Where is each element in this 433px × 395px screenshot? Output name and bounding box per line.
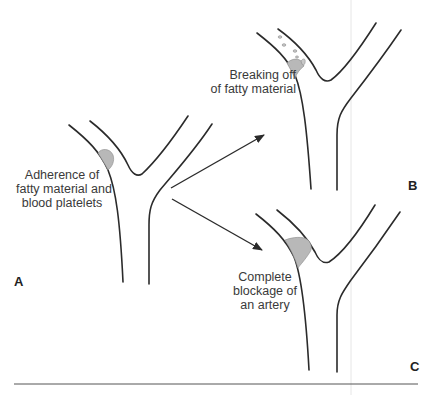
caption-c-line-3: an artery [230, 298, 300, 312]
panel-letter-a: A [14, 274, 23, 289]
artery-b-left-wall [257, 33, 311, 189]
caption-a-line-2: fatty material and [16, 182, 108, 196]
panel-letter-c: C [410, 359, 419, 374]
arrow-a-to-c [172, 199, 262, 250]
artery-b-right-wall [337, 30, 401, 190]
caption-b-line-2: of fatty material [210, 82, 296, 96]
atherosclerosis-figure: Adherence of fatty material and blood pl… [0, 0, 433, 395]
caption-a-line-1: Adherence of [16, 168, 108, 182]
caption-c: Complete blockage of an artery [230, 270, 300, 312]
arrow-a-to-b [171, 135, 264, 188]
caption-b: Breaking off of fatty material [210, 68, 296, 96]
caption-a: Adherence of fatty material and blood pl… [16, 168, 108, 210]
panel-letter-b: B [408, 178, 417, 193]
artery-c-right-wall [337, 212, 400, 372]
plaque-c-blockage [285, 237, 311, 268]
caption-b-line-1: Breaking off [210, 68, 296, 82]
caption-c-line-2: blockage of [230, 284, 300, 298]
artery-b [257, 23, 401, 190]
artery-a-inner-wall [90, 116, 188, 175]
caption-a-line-3: blood platelets [16, 196, 108, 210]
caption-c-line-1: Complete [230, 270, 300, 284]
